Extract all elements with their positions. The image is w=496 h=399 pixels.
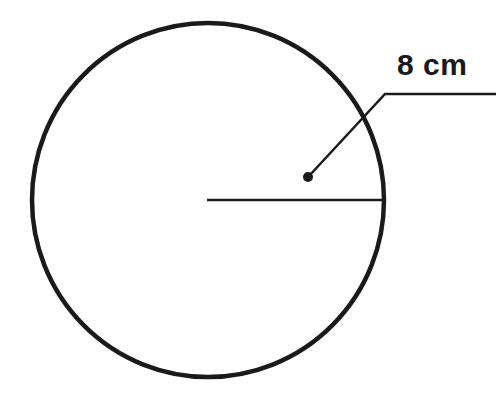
diagram-canvas: 8 cm — [0, 0, 496, 399]
leader-endpoint-dot — [303, 172, 313, 182]
radius-measurement-label: 8 cm — [397, 50, 467, 80]
